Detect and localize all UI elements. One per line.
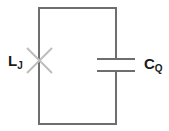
junction-label: LJ [8, 53, 23, 68]
capacitor-label-main: C [144, 55, 155, 72]
capacitor-symbol [97, 59, 135, 71]
capacitor-label: CQ [144, 56, 163, 71]
wire-loop [39, 8, 116, 124]
junction-label-subscript: J [17, 60, 23, 71]
capacitor-label-subscript: Q [155, 63, 163, 74]
wire [39, 8, 116, 124]
junction-label-main: L [8, 52, 17, 69]
